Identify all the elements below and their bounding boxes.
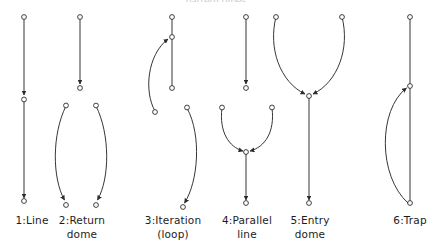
diagram-label-3: 3:Iteration (loop): [138, 214, 208, 241]
node-right-start: [340, 15, 345, 20]
stroke-pattern-diagram-canvas: .s { fill:none; stroke:#2b2b2b; stroke-w…: [0, 0, 432, 247]
diagram-3-iteration-loop: [149, 15, 197, 210]
node-left-end: [64, 203, 69, 208]
node-start: [78, 15, 83, 20]
diagram-label-6: 6:Trap: [388, 214, 432, 228]
diagram-2-return-dome: [55, 15, 106, 208]
node-bottom-end: [244, 201, 249, 206]
node-junction: [244, 150, 249, 155]
node-left-start: [64, 103, 69, 108]
node-left-start: [274, 15, 279, 20]
node-left-start: [220, 105, 225, 110]
node-start: [22, 15, 27, 20]
node-end: [78, 86, 83, 91]
diagram-4-parallel-line: [220, 15, 275, 206]
node-junction: [170, 35, 175, 40]
diagram-label-5: 5:Entry dome: [282, 214, 338, 241]
node-bottom-end: [307, 201, 312, 206]
node-top: [408, 15, 413, 20]
node-mid: [408, 84, 413, 89]
node-arc-end: [181, 205, 186, 210]
node-bottom: [408, 201, 413, 206]
diagram-label-2: 2:Return dome: [54, 214, 110, 241]
diagram-6-trap: [385, 15, 412, 206]
node-top: [170, 15, 175, 20]
node-right-start: [270, 105, 275, 110]
figure-root: pattern types .s { fill:none; stroke:#2b…: [0, 0, 432, 247]
node-mid: [22, 97, 27, 102]
node-bottom: [170, 86, 175, 91]
node-top-end: [244, 86, 249, 91]
node-top-start: [244, 15, 249, 20]
diagram-5-entry-dome: [274, 15, 345, 206]
node-end: [22, 199, 27, 204]
diagram-1-line: [22, 15, 27, 204]
node-arc-start: [185, 105, 190, 110]
node-right-start: [94, 103, 99, 108]
node-junction: [307, 94, 312, 99]
node-right-end: [94, 203, 99, 208]
diagram-label-1: 1:Line: [8, 214, 56, 228]
diagram-label-4: 4:Parallel line: [216, 214, 278, 241]
node-loop-start: [153, 110, 158, 115]
